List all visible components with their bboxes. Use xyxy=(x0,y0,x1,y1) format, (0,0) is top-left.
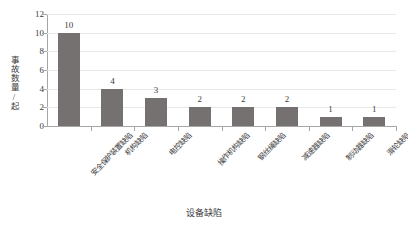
y-axis-tick-mark xyxy=(42,51,47,52)
gridline xyxy=(47,14,396,15)
x-axis-tick-mark xyxy=(91,127,92,131)
x-axis-category-label: 钢丝绳缺陷 xyxy=(258,132,288,162)
x-axis-tick-mark xyxy=(134,127,135,131)
bar-value-label: 1 xyxy=(354,105,394,114)
bar-value-label: 10 xyxy=(49,21,89,30)
y-axis-tick-mark xyxy=(42,14,47,15)
bar-value-label: 1 xyxy=(311,105,351,114)
y-axis-tick-label-group: 024681012 xyxy=(24,14,44,126)
x-axis-title: 设备缺陷 xyxy=(0,206,408,219)
y-axis-tick-mark xyxy=(42,107,47,108)
gridline xyxy=(47,89,396,90)
bar[interactable] xyxy=(276,107,298,126)
y-axis-tick-mark xyxy=(42,33,47,34)
gridline xyxy=(47,33,396,34)
plot-area: 104322211 xyxy=(47,14,396,126)
bar-value-label: 4 xyxy=(92,77,132,86)
bar-value-label: 2 xyxy=(180,95,220,104)
x-axis-category-label: 操作机构缺陷 xyxy=(216,132,251,167)
x-axis-tick-mark xyxy=(396,127,397,131)
x-axis-tick-mark xyxy=(265,127,266,131)
x-axis-category-label: 制动器缺陷 xyxy=(345,132,375,162)
gridline xyxy=(47,51,396,52)
bar[interactable] xyxy=(363,117,385,126)
y-axis-title: 事故数量/起 xyxy=(6,38,22,128)
bar-value-label: 2 xyxy=(267,95,307,104)
bar[interactable] xyxy=(320,117,342,126)
y-axis-tick-mark xyxy=(42,70,47,71)
gridline xyxy=(47,70,396,71)
bar[interactable] xyxy=(232,107,254,126)
bar[interactable] xyxy=(101,89,123,126)
y-axis-tick-mark xyxy=(42,89,47,90)
bar[interactable] xyxy=(145,98,167,126)
y-axis-tick-mark xyxy=(42,126,47,127)
x-axis-category-label: 减速器缺陷 xyxy=(301,132,331,162)
x-axis-tick-mark xyxy=(178,127,179,131)
bar[interactable] xyxy=(58,33,80,126)
bar-value-label: 3 xyxy=(136,86,176,95)
x-axis-category-label: 滑轮缺陷 xyxy=(386,132,408,157)
x-axis-tick-mark xyxy=(352,127,353,131)
x-axis-tick-mark xyxy=(309,127,310,131)
x-axis-tick-mark xyxy=(222,127,223,131)
bar-chart-figure: 事故数量/起 024681012 104322211 设备缺陷 安全保护装置缺陷… xyxy=(0,0,408,234)
bar-value-label: 2 xyxy=(223,95,263,104)
bar[interactable] xyxy=(189,107,211,126)
x-axis-category-label: 电控缺陷 xyxy=(168,132,193,157)
